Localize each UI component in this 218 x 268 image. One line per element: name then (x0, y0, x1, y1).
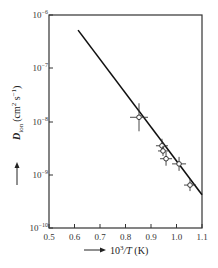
y-axis-arrow (15, 162, 20, 185)
y-tick-label: 10−6 (33, 9, 48, 20)
x-tick-label: 0.9 (145, 232, 157, 242)
x-tick-label: 1.1 (196, 232, 207, 242)
x-axis-ticks: 0.50.60.70.80.91.01.1 (43, 224, 207, 242)
data-points (130, 103, 196, 191)
y-tick-label: 10−9 (33, 169, 48, 180)
x-axis-title: 103/T (K) (84, 244, 148, 257)
svg-text:103/T (K): 103/T (K) (110, 244, 148, 257)
x-tick-label: 0.7 (94, 232, 106, 242)
svg-text:Dion(cm2 s−1): Dion(cm2 s−1) (10, 86, 25, 141)
y-tick-label: 10−7 (33, 62, 48, 73)
y-axis-title: Dion(cm2 s−1) (10, 86, 25, 141)
plot-frame (49, 15, 202, 228)
x-tick-label: 0.6 (69, 232, 81, 242)
x-tick-label: 0.8 (120, 232, 132, 242)
data-point (184, 179, 196, 191)
data-point (130, 103, 148, 131)
x-tick-label: 1.0 (171, 232, 183, 242)
fit-line (78, 30, 202, 195)
y-tick-label: 10−8 (33, 116, 48, 127)
chart: 0.50.60.70.80.91.01.1 10−610−710−810−910… (0, 0, 218, 268)
x-tick-label: 0.5 (43, 232, 55, 242)
